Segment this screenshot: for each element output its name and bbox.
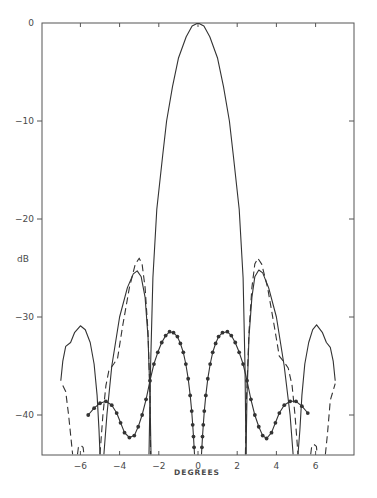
data-point-marker — [233, 341, 237, 345]
data-point-marker — [164, 334, 168, 338]
plot-frame — [42, 23, 354, 455]
data-point-marker — [191, 423, 195, 427]
data-point-marker — [160, 341, 164, 345]
data-point-marker — [201, 435, 205, 439]
x-tick-label: −6 — [74, 461, 88, 471]
data-point-marker — [144, 397, 148, 401]
x-tick-label: 6 — [313, 461, 319, 471]
data-point-marker — [202, 409, 206, 413]
data-point-marker — [119, 421, 123, 425]
data-point-marker — [211, 350, 215, 354]
data-point-marker — [270, 431, 274, 435]
data-series — [61, 23, 335, 454]
data-point-marker — [249, 397, 253, 401]
series-solid — [61, 23, 335, 454]
data-point-marker — [123, 431, 127, 435]
data-point-marker — [148, 379, 152, 383]
data-point-marker — [200, 445, 204, 449]
data-point-marker — [226, 330, 230, 334]
data-point-marker — [241, 362, 245, 366]
y-tick-label: −40 — [15, 410, 34, 420]
data-point-marker — [186, 377, 190, 381]
data-point-marker — [282, 403, 286, 407]
data-point-marker — [156, 350, 160, 354]
data-point-marker — [140, 413, 144, 417]
data-point-marker — [98, 401, 102, 405]
data-point-marker — [217, 335, 221, 339]
series-line — [63, 386, 73, 455]
data-point-marker — [152, 362, 156, 366]
data-point-marker — [277, 411, 281, 415]
data-point-marker — [265, 437, 269, 441]
series-solid-with-markers — [86, 330, 309, 454]
data-point-marker — [132, 434, 136, 438]
data-point-marker — [306, 411, 310, 415]
data-point-marker — [110, 403, 114, 407]
data-point-marker — [274, 421, 278, 425]
data-point-marker — [253, 413, 257, 417]
data-point-marker — [178, 342, 182, 346]
axis-ticks: −6−4−202460−10−20−30−40 — [15, 18, 354, 471]
data-point-marker — [294, 399, 298, 403]
data-point-marker — [172, 331, 176, 335]
data-point-marker — [208, 362, 212, 366]
data-point-marker — [201, 423, 205, 427]
data-point-marker — [300, 404, 304, 408]
antenna-pattern-chart: −6−4−202460−10−20−30−40 DEGREES dB — [0, 0, 377, 498]
x-tick-label: −2 — [152, 461, 165, 471]
data-point-marker — [176, 335, 180, 339]
y-axis-title: dB — [17, 254, 29, 264]
data-point-marker — [86, 413, 90, 417]
data-point-marker — [221, 331, 225, 335]
data-point-marker — [192, 435, 196, 439]
x-tick-label: −4 — [113, 461, 127, 471]
data-point-marker — [245, 379, 249, 383]
series-line — [325, 384, 335, 455]
series-line — [246, 270, 293, 454]
series-line — [88, 332, 194, 455]
series-line — [298, 325, 335, 454]
y-tick-label: −10 — [15, 116, 34, 126]
series-line — [149, 23, 246, 454]
data-point-marker — [261, 434, 265, 438]
data-point-marker — [115, 411, 119, 415]
data-point-marker — [136, 425, 140, 429]
data-point-marker — [237, 350, 241, 354]
data-point-marker — [104, 399, 108, 403]
data-point-marker — [229, 334, 233, 338]
y-tick-label: 0 — [28, 18, 34, 28]
data-point-marker — [188, 394, 192, 398]
x-tick-label: 2 — [234, 461, 240, 471]
data-point-marker — [288, 399, 292, 403]
series-dashed — [63, 258, 335, 454]
data-point-marker — [257, 425, 261, 429]
series-line — [61, 326, 100, 454]
data-point-marker — [184, 362, 188, 366]
series-line — [311, 444, 318, 454]
data-point-marker — [192, 445, 196, 449]
x-tick-label: 4 — [274, 461, 280, 471]
x-axis-title: DEGREES — [174, 468, 220, 477]
data-point-marker — [127, 436, 131, 440]
data-point-marker — [168, 330, 172, 334]
data-point-marker — [206, 377, 210, 381]
y-tick-label: −20 — [15, 214, 34, 224]
data-point-marker — [190, 409, 194, 413]
data-point-marker — [204, 394, 208, 398]
data-point-marker — [92, 406, 96, 410]
data-point-marker — [181, 350, 185, 354]
y-tick-label: −30 — [15, 312, 34, 322]
data-point-marker — [214, 342, 218, 346]
